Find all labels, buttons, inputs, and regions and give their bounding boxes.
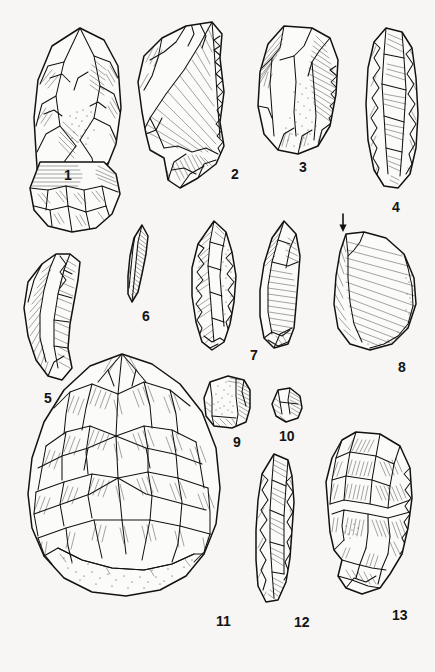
artefact-figure-7-ventral <box>248 218 314 358</box>
artefact-figure-12 <box>246 450 312 616</box>
figure-label-8: 8 <box>398 360 406 374</box>
figure-label-4: 4 <box>392 200 400 214</box>
figure-label-11: 11 <box>216 614 231 628</box>
figure-label-1: 1 <box>64 168 72 182</box>
impact-point-arrow-icon <box>337 213 349 237</box>
artefact-figure-11 <box>14 348 236 616</box>
figure-label-2: 2 <box>231 167 239 181</box>
artefact-figure-4 <box>358 24 428 196</box>
artefact-plate: 1 2 3 4 5 6 7 8 9 10 11 12 13 <box>0 0 435 672</box>
figure-label-12: 12 <box>294 615 310 629</box>
figure-label-13: 13 <box>392 608 408 622</box>
artefact-figure-8 <box>324 228 428 360</box>
artefact-figure-3 <box>250 22 346 162</box>
artefact-figure-6 <box>118 222 162 310</box>
figure-label-5: 5 <box>44 391 52 405</box>
artefact-figure-7-dorsal <box>182 218 250 358</box>
figure-label-9: 9 <box>233 435 241 449</box>
artefact-figure-10 <box>264 384 312 432</box>
figure-label-10: 10 <box>279 429 295 443</box>
artefact-figure-13 <box>310 428 428 608</box>
figure-label-3: 3 <box>299 160 307 174</box>
artefact-figure-2 <box>128 18 234 198</box>
figure-label-7: 7 <box>250 348 258 362</box>
figure-label-6: 6 <box>142 309 150 323</box>
